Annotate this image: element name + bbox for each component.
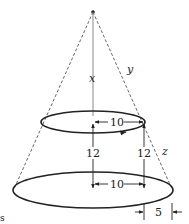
label-corner-mark: s: [0, 213, 5, 223]
label-bottom-radius: 10: [110, 178, 124, 191]
label-offset: 5: [155, 206, 162, 219]
label-top-radius: 10: [110, 116, 124, 129]
label-z: z: [161, 145, 168, 158]
label-center-height: 12: [86, 147, 100, 160]
frustum-diagram: x y z 10 12 12 10 5 s: [0, 0, 189, 224]
right-slant-dashed-line: [93, 12, 172, 189]
left-slant-dashed-line: [14, 12, 93, 189]
label-right-height: 12: [137, 147, 151, 160]
label-x: x: [89, 72, 96, 85]
label-y: y: [126, 63, 134, 76]
top-ellipse-direction-arrow: [120, 132, 126, 133]
